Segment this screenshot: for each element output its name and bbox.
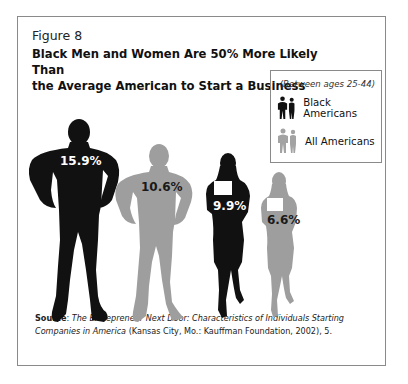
man-silhouette-all [115, 144, 192, 322]
pictogram-chart [0, 0, 408, 384]
tablet-icon [214, 181, 232, 195]
value-label-black-women: 9.9% [213, 199, 246, 213]
value-label-all-women: 6.6% [267, 213, 300, 227]
woman-silhouette-black [206, 153, 250, 318]
man-silhouette-black [29, 119, 119, 322]
woman-silhouette-all [261, 172, 297, 317]
value-label-all-men: 10.6% [141, 180, 183, 194]
value-label-black-men: 15.9% [60, 154, 102, 168]
tablet-icon [267, 198, 283, 211]
